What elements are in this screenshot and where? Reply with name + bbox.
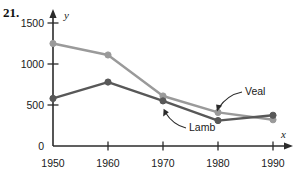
lamb-points xyxy=(50,79,276,124)
y-tick-label-500: 500 xyxy=(26,99,44,111)
figure-container: 21. 1500 1000 500 0 xyxy=(0,0,302,175)
y-tick-label-1500: 1500 xyxy=(21,17,45,29)
x-tick-labels: 1950 1960 1970 1980 1990 xyxy=(41,157,285,169)
axes-group xyxy=(49,9,293,150)
y-tick-labels: 1500 1000 500 0 xyxy=(21,17,45,152)
x-axis-label: x xyxy=(280,128,286,140)
x-axis-arrow-icon xyxy=(284,142,293,149)
lamb-point-1960 xyxy=(105,79,111,85)
x-tick-label-1980: 1980 xyxy=(206,157,230,169)
x-tick-label-1960: 1960 xyxy=(96,157,120,169)
lamb-point-1990 xyxy=(270,112,276,118)
lamb-point-1970 xyxy=(160,98,166,104)
veal-point-1950 xyxy=(50,40,56,46)
series-veal xyxy=(50,40,276,122)
x-tick-label-1990: 1990 xyxy=(261,157,285,169)
veal-point-1960 xyxy=(105,52,111,58)
lamb-point-1950 xyxy=(50,95,56,101)
veal-points xyxy=(50,40,276,122)
annotation-lamb: Lamb xyxy=(163,109,215,133)
lamb-point-1980 xyxy=(215,117,221,123)
x-tick-label-1950: 1950 xyxy=(41,157,65,169)
y-tick-label-1000: 1000 xyxy=(21,58,45,70)
y-axis-label: y xyxy=(63,9,69,21)
x-tick-label-1970: 1970 xyxy=(151,157,175,169)
lamb-label: Lamb xyxy=(189,121,215,133)
lamb-leader-line xyxy=(165,112,186,128)
veal-label: Veal xyxy=(245,85,265,97)
y-axis-arrow-icon xyxy=(49,9,56,18)
series-lamb xyxy=(50,79,276,124)
line-chart: 1500 1000 500 0 1950 1960 1970 1980 1990… xyxy=(0,0,302,175)
veal-line xyxy=(53,44,273,120)
y-tick-label-0: 0 xyxy=(38,140,44,152)
annotation-veal: Veal xyxy=(216,85,265,112)
